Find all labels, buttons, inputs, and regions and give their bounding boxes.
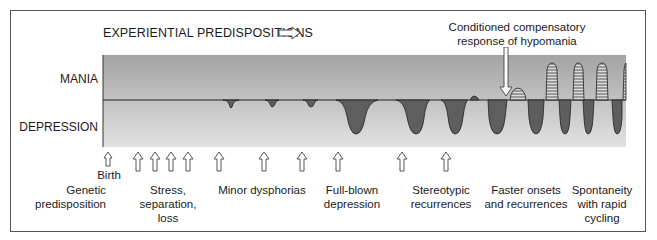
stage-full-blown: Full-blown depression [322, 183, 382, 211]
recurrence-arrow-icon [397, 152, 407, 171]
stage-faster-onsets: Faster onsets and recurrences [481, 183, 571, 211]
dysphoria-arrow-icon [259, 152, 269, 171]
dysphoria-arrow-icon [214, 152, 224, 171]
stage-spontaneity: Spontaneity with rapid cycling [567, 183, 637, 225]
birth-label: Birth [89, 168, 129, 182]
stage-minor-dysphorias: Minor dysphorias [212, 183, 312, 197]
stage-genetic: Genetic predisposition [26, 183, 106, 211]
stress-arrow-icon [150, 152, 160, 171]
recurrence-arrow-icon [441, 152, 451, 171]
stress-arrow-icon [166, 152, 176, 171]
stress-arrow-icon [133, 152, 143, 171]
stage-stereotypic: Stereotypic recurrences [406, 183, 476, 211]
stage-stress: Stress, separation, loss [128, 183, 208, 225]
birth-arrow-icon [104, 152, 112, 166]
stress-arrow-icon [183, 152, 193, 171]
dysphoria-arrow-icon [297, 152, 307, 171]
depression-arrow-icon [333, 152, 343, 171]
